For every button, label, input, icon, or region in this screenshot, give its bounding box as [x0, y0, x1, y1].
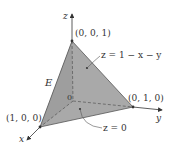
top-surface-label: z = 1 − x − y: [101, 50, 162, 60]
vertex-top: [71, 40, 74, 43]
tetrahedron-diagram: z y x (0, 0, 1) (0, 1, 0) (1, 0, 0) 0 E …: [0, 0, 174, 149]
bottom-surface-label: z = 0: [103, 123, 127, 133]
z-axis-label: z: [62, 11, 68, 21]
point-x-label: (1, 0, 0): [6, 113, 42, 123]
y-axis: [133, 107, 162, 110]
x-axis: [27, 127, 40, 140]
point-y-label: (0, 1, 0): [128, 93, 164, 103]
y-axis-label: y: [155, 113, 162, 123]
x-axis-label: x: [19, 134, 24, 144]
vertex-x: [39, 126, 42, 129]
region-label: E: [44, 77, 53, 88]
origin-label: 0: [67, 93, 72, 102]
vertex-y: [132, 106, 135, 109]
point-top-label: (0, 0, 1): [75, 28, 111, 38]
